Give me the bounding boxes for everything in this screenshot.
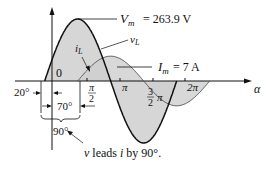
im-label: Im <box>157 59 169 76</box>
im-value: = 7 A <box>173 60 200 74</box>
tick-label-3pi-over-2-pi: π <box>157 91 163 103</box>
angle-90-label: 90° <box>53 125 68 137</box>
tick-label-2pi: 2π <box>187 81 199 93</box>
voltage-label: vL <box>130 33 140 47</box>
phase-diagram: Vm = 263.9 V vL iL Im = 7 A 0 π 2 π 3 2 … <box>0 0 276 172</box>
angle-20-label: 20° <box>14 86 29 98</box>
arrow-left-icon <box>53 91 58 95</box>
caption-leader-line <box>70 133 83 143</box>
tick-label-pi: π <box>122 81 128 93</box>
tick-label-pi-over-2-den: 2 <box>89 93 94 104</box>
voltage-leader-line <box>101 40 128 49</box>
caption: v leads i by 90°. <box>84 146 161 160</box>
origin-label: 0 <box>56 66 62 80</box>
y-axis-arrow-icon <box>50 7 55 15</box>
arrow-left-icon <box>80 104 85 108</box>
tick-label-3pi-over-2-den: 2 <box>148 97 153 108</box>
arrow-right-icon <box>47 104 52 108</box>
tick-label-pi-over-2-num: π <box>89 82 95 93</box>
arrow-right-icon <box>36 91 41 95</box>
angle-70-label: 70° <box>57 100 72 112</box>
tick-label-3pi-over-2-num: 3 <box>148 86 153 97</box>
vm-value: = 263.9 V <box>143 12 192 26</box>
x-axis-label: α <box>254 82 261 96</box>
vm-label: Vm <box>120 11 135 28</box>
brace-90 <box>41 115 80 122</box>
x-axis-arrow-icon <box>244 79 252 84</box>
